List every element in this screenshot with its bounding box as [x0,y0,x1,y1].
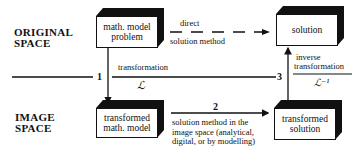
transformed-solution-box: transformed solution [274,108,336,140]
image-space-method-description: solution method in the image space (anal… [172,118,255,147]
transformation-label: transformation [118,63,168,73]
original-space-line2: SPACE [14,38,73,49]
transformed-math-model-box: transformed math. model [96,108,158,138]
laplace-symbol: ℒ [137,81,145,91]
box-text-line: solution [282,124,328,134]
box-text-line: transformed [103,113,151,123]
image-space-label: IMAGE SPACE [15,112,55,134]
box-text-line: solution [292,25,323,35]
solution-box: solution [276,14,338,46]
direct-label-bottom: solution method [170,37,225,47]
box-text-line: transformed [282,114,328,124]
step-1-number: 1 [97,71,102,82]
math-model-problem-box: math. model problem [96,16,158,48]
inverse-transformation-label: transformation [294,62,344,72]
direct-label-top: direct [180,19,199,29]
original-space-label: ORIGINAL SPACE [14,27,73,49]
box-text-line: problem [103,32,151,42]
image-space-line2: SPACE [15,123,55,134]
inverse-laplace-symbol: ℒ⁻¹ [314,78,329,88]
step-3-number: 3 [277,71,282,82]
box-text-line: math. model [103,22,151,32]
box-text-line: math. model [103,123,151,133]
step-2-number: 2 [213,101,218,112]
description-line: digital, or by modelling) [172,137,255,147]
